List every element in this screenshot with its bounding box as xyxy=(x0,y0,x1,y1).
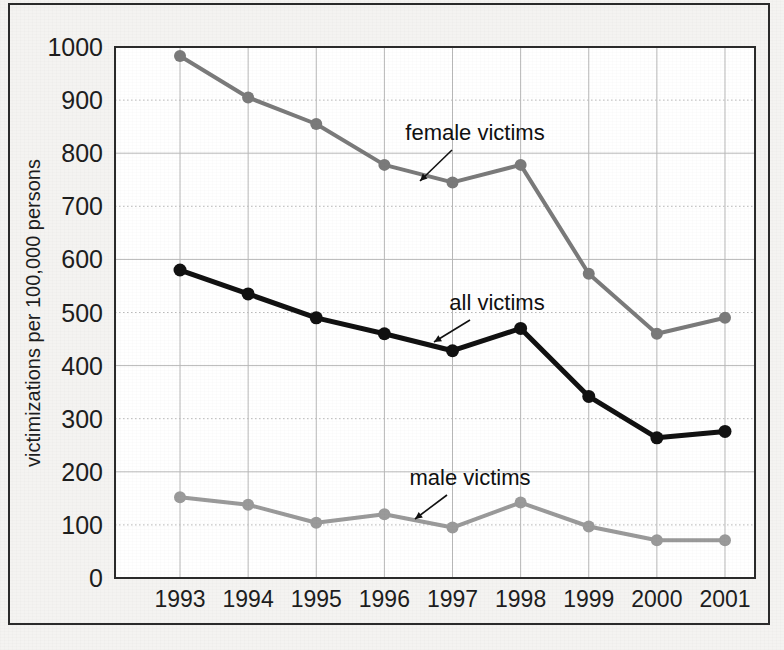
data-point xyxy=(583,520,595,532)
data-point xyxy=(174,491,186,503)
data-point xyxy=(242,91,254,103)
y-tick-label: 800 xyxy=(61,139,103,167)
annotation-label: male victims xyxy=(409,465,530,490)
y-tick-label: 600 xyxy=(61,245,103,273)
data-point xyxy=(174,264,187,277)
data-point xyxy=(310,517,322,529)
data-point xyxy=(310,311,323,324)
data-point xyxy=(651,328,663,340)
y-tick-label: 1000 xyxy=(47,33,103,61)
data-point xyxy=(447,522,459,534)
data-point xyxy=(719,534,731,546)
data-point xyxy=(650,431,663,444)
data-point xyxy=(515,159,527,171)
x-tick-label: 1998 xyxy=(495,586,546,612)
y-tick-label: 900 xyxy=(61,86,103,114)
x-tick-label: 1994 xyxy=(223,586,274,612)
y-tick-label: 200 xyxy=(61,458,103,486)
x-tick-label: 1996 xyxy=(359,586,410,612)
data-point xyxy=(310,118,322,130)
y-tick-label: 100 xyxy=(61,511,103,539)
x-tick-label: 1999 xyxy=(563,586,614,612)
x-tick-label: 1995 xyxy=(291,586,342,612)
data-point xyxy=(515,497,527,509)
data-point xyxy=(514,322,527,335)
y-tick-label: 500 xyxy=(61,299,103,327)
x-axis-tick-labels: 199319941995199619971998199920002001 xyxy=(154,586,750,612)
y-axis-title: victimizations per 100,000 persons xyxy=(22,159,44,467)
y-tick-label: 700 xyxy=(61,192,103,220)
data-point xyxy=(719,425,732,438)
data-point xyxy=(583,268,595,280)
x-tick-label: 2001 xyxy=(699,586,750,612)
data-point xyxy=(378,327,391,340)
chart-page: 01002003004005006007008009001000 1993199… xyxy=(0,0,784,650)
data-point xyxy=(719,312,731,324)
y-tick-label: 400 xyxy=(61,352,103,380)
data-point xyxy=(651,534,663,546)
y-tick-label: 300 xyxy=(61,405,103,433)
y-axis-tick-labels: 01002003004005006007008009001000 xyxy=(47,33,103,592)
line-chart: 01002003004005006007008009001000 1993199… xyxy=(0,0,784,650)
data-point xyxy=(378,508,390,520)
data-point xyxy=(378,159,390,171)
x-tick-label: 2000 xyxy=(631,586,682,612)
x-tick-label: 1993 xyxy=(154,586,205,612)
annotation-label: female victims xyxy=(405,120,544,145)
data-point xyxy=(447,176,459,188)
annotation-label: all victims xyxy=(449,290,544,315)
data-point xyxy=(582,390,595,403)
x-tick-label: 1997 xyxy=(427,586,478,612)
data-point xyxy=(174,50,186,62)
data-point xyxy=(242,499,254,511)
data-point xyxy=(242,287,255,300)
y-tick-label: 0 xyxy=(89,564,103,592)
data-point xyxy=(446,344,459,357)
